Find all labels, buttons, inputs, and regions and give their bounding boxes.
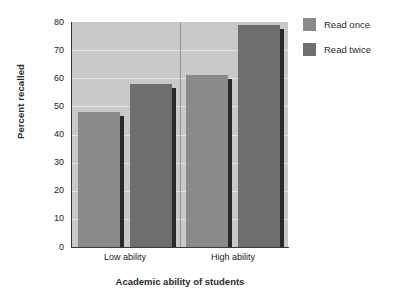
plot-area [72, 22, 288, 247]
y-axis-tick-labels: 01020304050607080 [36, 22, 64, 247]
bar[interactable] [186, 75, 228, 247]
group-divider-line [180, 22, 181, 247]
bar[interactable] [238, 25, 280, 247]
bar[interactable] [130, 84, 172, 247]
legend: Read onceRead twice [303, 18, 413, 68]
legend-item-label: Read once [324, 19, 370, 30]
x-axis-title: Academic ability of students [40, 276, 320, 287]
y-axis-tick-label: 20 [36, 186, 64, 195]
y-axis-tick-label: 50 [36, 102, 64, 111]
y-axis-tick-label: 10 [36, 214, 64, 223]
y-axis-tick-label: 40 [36, 130, 64, 139]
x-axis-tick-label: High ability [183, 252, 283, 262]
y-axis-tick-label: 80 [36, 18, 64, 27]
bar[interactable] [78, 112, 120, 247]
y-axis-tick-label: 0 [36, 243, 64, 252]
legend-item-label: Read twice [324, 44, 371, 55]
y-axis-tick-label: 30 [36, 158, 64, 167]
x-axis-tick-label: Low ability [75, 252, 175, 262]
legend-item[interactable]: Read twice [303, 43, 413, 56]
bar-chart: Percent recalled 01020304050607080 Low a… [0, 0, 416, 299]
x-axis-line [71, 247, 289, 248]
legend-swatch-icon [303, 18, 316, 31]
y-axis-tick-label: 60 [36, 74, 64, 83]
legend-swatch-icon [303, 43, 316, 56]
y-axis-title: Percent recalled [15, 52, 26, 152]
y-axis-tick-label: 70 [36, 46, 64, 55]
legend-item[interactable]: Read once [303, 18, 413, 31]
